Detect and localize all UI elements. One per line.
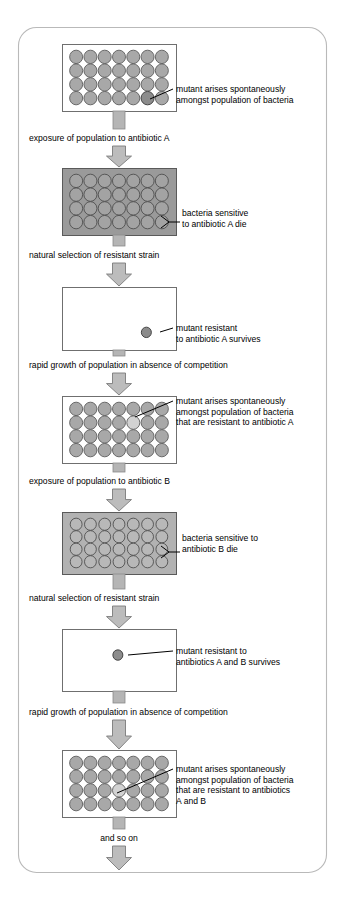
bacterium [70,443,83,456]
antibiotic-resistance-diagram: mutant arises spontaneouslyamongst popul… [0,0,345,900]
bacterium [112,215,125,228]
bacterium [70,78,83,91]
bacterium [84,443,97,456]
bacterium [70,174,83,187]
bacterium [141,215,154,228]
panel-1-label: mutant arises spontaneouslyamongst popul… [176,84,294,105]
bacterium [112,402,125,415]
bacterium [70,797,83,810]
step-exposure-antibiotic-a: exposure of population to antibiotic A [29,133,170,143]
bacterium [84,756,97,769]
bacterium [84,416,97,429]
bacterium [99,543,111,555]
bacterium [127,770,140,783]
bacterium [112,797,125,810]
bacterium [98,50,111,63]
bacterium [98,174,111,187]
bacterium [155,174,168,187]
bacterium [112,64,125,77]
bacterium [155,784,168,797]
mutant-bacterium [141,327,151,337]
bacterium [112,416,125,429]
bacterium [141,797,154,810]
bacterium [70,215,83,228]
bacterium [85,531,97,543]
bacterium [98,770,111,783]
bacterium [141,188,154,201]
bacterium [113,518,125,530]
bacterium [98,64,111,77]
bacterium [127,543,139,555]
bacterium [98,402,111,415]
bacterium [99,518,111,530]
bacterium [127,416,140,429]
bacterium [155,202,168,215]
bacterium [70,531,82,543]
bacterium [155,756,168,769]
bacterium [84,784,97,797]
population-with-first-mutant [63,45,177,112]
bacterium [127,78,140,91]
bacterium [156,518,168,530]
connector-bar [113,350,125,356]
bacterium [84,797,97,810]
bacterium [127,402,140,415]
bacterium [112,202,125,215]
bacterium [155,50,168,63]
bacterium [84,402,97,415]
panel-6-box [63,630,177,692]
bacterium [98,202,111,215]
bacterium [112,50,125,63]
step-rapid-growth-1: rapid growth of population in absence of… [29,360,228,370]
bacterium [70,64,83,77]
bacterium [127,443,140,456]
bacterium [155,797,168,810]
bacterium [141,416,154,429]
bacterium [85,518,97,530]
bacterium [98,797,111,810]
bacterium [142,543,154,555]
connector-bar [113,691,125,703]
bacterium [141,202,154,215]
bacterium [70,402,83,415]
bacterium [142,518,154,530]
bacterium [98,78,111,91]
bacterium [84,174,97,187]
bacterium [98,188,111,201]
bacterium [155,78,168,91]
bacterium [70,518,82,530]
bacterium [84,202,97,215]
bacterium [70,91,83,104]
bacterium [141,784,154,797]
bacterium [141,174,154,187]
bacterium [98,784,111,797]
bacterium [85,543,97,555]
mutant-bacterium [113,650,123,660]
bacterium [141,756,154,769]
bacterium [99,556,111,568]
bacterium [127,174,140,187]
bacterium [113,531,125,543]
bacterium [141,78,154,91]
diagram-canvas: mutant arises spontaneouslyamongst popul… [0,0,345,900]
panel-2-label: bacteria sensitiveto antibiotic A die [182,208,249,229]
bacterium [141,50,154,63]
bacterium [113,556,125,568]
bacterium [85,556,97,568]
bacterium [155,443,168,456]
bacterium [142,556,154,568]
bacterium [70,416,83,429]
step-exposure-antibiotic-b: exposure of population to antibiotic B [29,476,170,486]
bacterium [127,556,139,568]
bacterium [98,443,111,456]
bacterium [155,430,168,443]
bacterium [127,531,139,543]
bacterium [112,91,125,104]
bacterium [70,430,83,443]
bacterium [84,430,97,443]
bacterium [112,188,125,201]
step-natural-selection-2: natural selection of resistant strain [29,593,160,603]
bacterium [84,50,97,63]
bacterium [127,215,140,228]
single-resistant-mutant-a [63,288,177,351]
